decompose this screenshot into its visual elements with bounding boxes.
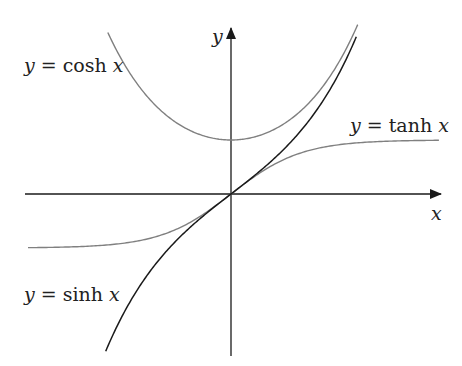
x-axis-label: x xyxy=(431,202,442,224)
y-axis-label: y xyxy=(211,25,223,47)
tanh-label: y = tanh x xyxy=(349,114,449,136)
cosh-curve xyxy=(108,25,358,140)
cosh-label: y = cosh x xyxy=(23,54,124,76)
hyperbolic-functions-plot: y = cosh x y = tanh x y = sinh x x y xyxy=(0,0,462,366)
sinh-label: y = sinh x xyxy=(23,283,120,305)
